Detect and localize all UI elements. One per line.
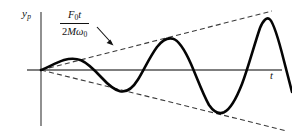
denominator-omega-subscript: 0 bbox=[83, 31, 87, 40]
callout-arrow-head bbox=[107, 39, 114, 45]
fraction-bar bbox=[60, 23, 89, 24]
numerator-time-symbol: t bbox=[78, 9, 81, 20]
lower-envelope-line bbox=[41, 70, 287, 131]
plot-canvas bbox=[0, 0, 292, 140]
t-axis-label: t bbox=[270, 71, 273, 82]
fraction-numerator: F0t bbox=[60, 9, 89, 23]
fraction-denominator: 2Mω0 bbox=[60, 25, 89, 39]
y-axis-label: yp bbox=[22, 8, 31, 21]
envelope-equation-annotation: F0t 2Mω0 bbox=[60, 9, 89, 39]
resonance-figure: yp t F0t 2Mω0 bbox=[0, 0, 292, 140]
y-axis-label-subscript: p bbox=[27, 12, 31, 21]
denominator-mass-symbol: M bbox=[67, 26, 76, 37]
